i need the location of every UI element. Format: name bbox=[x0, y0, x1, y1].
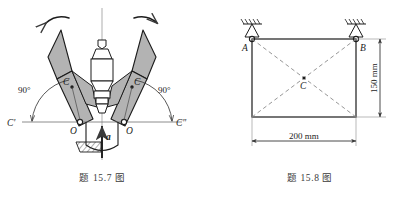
ref-label-right: C" bbox=[176, 118, 187, 128]
pivot-joint-right bbox=[121, 119, 126, 124]
ground-hatch-b bbox=[345, 19, 366, 24]
pivot-label-left: O bbox=[70, 126, 77, 136]
dimension-label-height: 150 mm bbox=[369, 63, 379, 93]
pivot-joint-left bbox=[77, 119, 82, 124]
dimension-label-width: 200 mm bbox=[289, 131, 319, 141]
angle-label-right: 90° bbox=[158, 85, 171, 95]
figure-caption-right: 题 15.8 图 bbox=[205, 170, 415, 184]
centroid-label: C bbox=[300, 81, 307, 91]
pin-support-a-icon bbox=[245, 24, 259, 37]
rotation-arrow-right-icon bbox=[134, 17, 157, 23]
figure-15-8: A B C 150 mm 200 mm bbox=[241, 19, 386, 146]
angle-label-left: 90° bbox=[18, 85, 31, 95]
centroid-marker bbox=[303, 77, 306, 80]
corner-label-a: A bbox=[241, 43, 248, 53]
mass-center-label-left: C bbox=[63, 77, 70, 87]
ground-hatch-a bbox=[241, 19, 262, 24]
ref-label-left: C' bbox=[7, 118, 16, 128]
flyball-arm-right bbox=[107, 30, 156, 126]
mass-center-label-right: C bbox=[134, 77, 141, 87]
figure-sheet: 90° 90° C' C" O O C C a bbox=[0, 0, 415, 197]
pin-support-b-icon bbox=[349, 24, 363, 37]
rotation-arrow-left-icon bbox=[46, 17, 69, 23]
acceleration-label: a bbox=[106, 132, 111, 142]
figure-15-7: 90° 90° C' C" O O C C a bbox=[7, 8, 187, 160]
diagram-canvas: 90° 90° C' C" O O C C a bbox=[0, 0, 415, 197]
corner-label-b: B bbox=[360, 43, 366, 53]
flyball-arm-left bbox=[48, 30, 97, 126]
figure-caption-left: 题 15.7 图 bbox=[0, 170, 205, 184]
pivot-label-right: O bbox=[126, 126, 133, 136]
governor-shaft bbox=[76, 122, 118, 152]
